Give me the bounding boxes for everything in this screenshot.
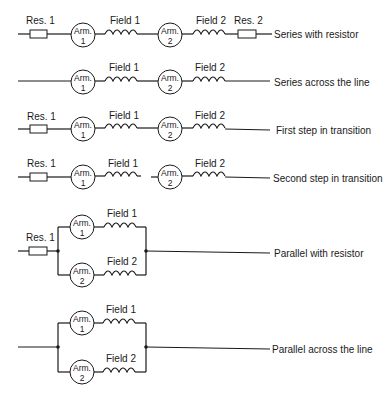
armature-1: Arm. 1 — [71, 23, 95, 47]
armature-1: Arm. 1 — [70, 311, 94, 335]
field-1-coil — [105, 124, 137, 128]
row-first-step-transition: Res. 1 Arm. 1 Field 1 Arm. 2 Field 2 Fir… — [18, 110, 371, 141]
field2-label: Field 2 — [195, 62, 225, 73]
svg-text:Arm.: Arm. — [74, 26, 92, 36]
field-2-coil — [193, 77, 225, 81]
field1-label: Field 1 — [106, 304, 136, 315]
resistor-1 — [29, 247, 47, 255]
armature-2: Arm. 2 — [158, 117, 182, 141]
field1-label: Field 1 — [108, 158, 138, 169]
svg-text:1: 1 — [81, 178, 86, 188]
field2-label: Field 2 — [196, 15, 226, 26]
armature-1: Arm. 1 — [71, 117, 95, 141]
field-2-coil — [103, 368, 135, 372]
svg-text:1: 1 — [80, 324, 85, 334]
caption-parallel-with-resistor: Parallel with resistor — [274, 248, 364, 259]
caption-parallel-across-line: Parallel across the line — [272, 344, 373, 355]
svg-text:2: 2 — [168, 178, 173, 188]
armature-1: Arm. 1 — [71, 165, 95, 189]
motor-connection-diagram: Res. 1 Arm. 1 Field 1 Arm. 2 Field 2 Res… — [0, 0, 391, 396]
svg-text:1: 1 — [80, 228, 85, 238]
field1-label: Field 1 — [109, 110, 139, 121]
row-series-with-resistor: Res. 1 Arm. 1 Field 1 Arm. 2 Field 2 Res… — [18, 15, 359, 47]
field1-label: Field 1 — [109, 62, 139, 73]
field-1-coil — [103, 319, 135, 323]
armature-1: Arm. 1 — [71, 70, 95, 94]
row-second-step-transition: Res. 1 Arm. 1 Field 1 Arm. 2 Field 2 Sec… — [18, 158, 383, 189]
row-series-across-line: Arm. 1 Field 1 Arm. 2 Field 2 Series acr… — [18, 62, 370, 94]
resistor-1 — [30, 30, 47, 38]
field-2-coil — [193, 172, 225, 176]
svg-text:Arm.: Arm. — [74, 168, 92, 178]
res1-label: Res. 1 — [27, 158, 56, 169]
svg-text:Arm.: Arm. — [74, 120, 92, 130]
svg-text:Arm.: Arm. — [161, 120, 179, 130]
svg-text:Arm.: Arm. — [74, 73, 92, 83]
caption-series-with-resistor: Series with resistor — [274, 29, 359, 40]
caption-second-step-transition: Second step in transition — [273, 173, 383, 184]
field2-label: Field 2 — [106, 353, 136, 364]
armature-1: Arm. 1 — [70, 215, 94, 239]
field-2-coil — [193, 124, 225, 128]
caption-series-across-line: Series across the line — [274, 77, 370, 88]
svg-text:Arm.: Arm. — [161, 168, 179, 178]
svg-text:Arm.: Arm. — [161, 26, 179, 36]
row-parallel-across-line: Arm. 1 Field 1 Arm. 2 Field 2 Parallel a… — [18, 304, 373, 384]
svg-text:1: 1 — [81, 83, 86, 93]
resistor-2 — [238, 30, 256, 38]
armature-2: Arm. 2 — [158, 23, 182, 47]
field2-label: Field 2 — [195, 158, 225, 169]
svg-text:1: 1 — [81, 130, 86, 140]
field2-label: Field 2 — [107, 256, 137, 267]
armature-2: Arm. 2 — [158, 70, 182, 94]
svg-text:2: 2 — [80, 276, 85, 286]
resistor-1 — [30, 173, 47, 181]
resistor-1 — [30, 125, 47, 133]
svg-text:2: 2 — [168, 130, 173, 140]
svg-text:Arm.: Arm. — [73, 218, 91, 228]
field-1-coil — [105, 172, 137, 176]
res2-label: Res. 2 — [234, 15, 263, 26]
svg-text:Arm.: Arm. — [73, 266, 91, 276]
svg-text:2: 2 — [168, 83, 173, 93]
field1-label: Field 1 — [110, 15, 140, 26]
field-1-coil — [105, 30, 137, 34]
svg-text:Arm.: Arm. — [161, 73, 179, 83]
field2-label: Field 2 — [195, 110, 225, 121]
res1-label: Res. 1 — [27, 111, 56, 122]
field-2-coil — [193, 30, 225, 34]
field1-label: Field 1 — [107, 208, 137, 219]
field-1-coil — [105, 77, 137, 81]
armature-2: Arm. 2 — [70, 360, 94, 384]
field-2-coil — [104, 271, 136, 275]
armature-2: Arm. 2 — [158, 165, 182, 189]
svg-text:2: 2 — [168, 36, 173, 46]
caption-first-step-transition: First step in transition — [276, 125, 371, 136]
res1-label: Res. 1 — [26, 232, 55, 243]
svg-text:2: 2 — [80, 373, 85, 383]
armature-2: Arm. 2 — [70, 263, 94, 287]
res1-label: Res. 1 — [26, 15, 55, 26]
svg-text:Arm.: Arm. — [73, 363, 91, 373]
svg-text:Arm.: Arm. — [73, 314, 91, 324]
svg-text:1: 1 — [81, 36, 86, 46]
field-1-coil — [104, 223, 136, 227]
row-parallel-with-resistor: Res. 1 Arm. 1 Field 1 Arm. 2 Field 2 Par — [18, 208, 364, 287]
